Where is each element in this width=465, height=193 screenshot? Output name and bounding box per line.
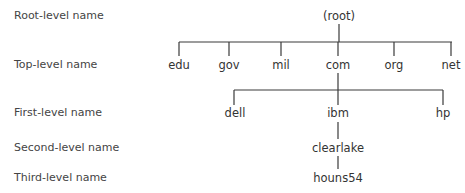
- node-mil: mil: [272, 58, 290, 72]
- node-edu: edu: [168, 58, 190, 72]
- node-dell: dell: [225, 106, 246, 120]
- node-com: com: [326, 58, 351, 72]
- node-org: org: [385, 58, 404, 72]
- tree-connectors: [0, 0, 465, 193]
- node-gov: gov: [218, 58, 239, 72]
- node-houns54: houns54: [313, 171, 363, 185]
- node-hp: hp: [436, 106, 451, 120]
- node-ibm: ibm: [327, 106, 349, 120]
- node-net: net: [442, 58, 461, 72]
- node-root: (root): [323, 9, 355, 23]
- node-clearlake: clearlake: [312, 141, 364, 155]
